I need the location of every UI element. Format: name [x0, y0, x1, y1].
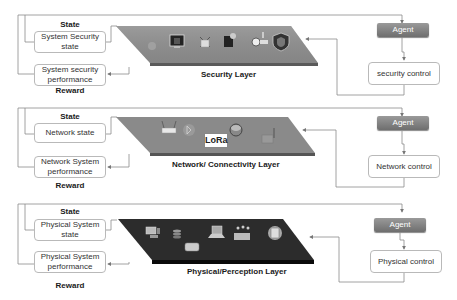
physical-reward-label: Reward	[40, 281, 100, 290]
network-agent[interactable]: Agent	[377, 116, 429, 130]
network-reward-label: Reward	[40, 181, 100, 190]
security-reward-label: Reward	[40, 86, 100, 95]
network-state-box[interactable]: Network state	[34, 123, 106, 143]
network-control-box[interactable]: Network control	[368, 155, 440, 178]
security-agent[interactable]: Agent	[377, 23, 429, 37]
physical-control-box[interactable]: Physical control	[370, 250, 442, 273]
security-state-box[interactable]: System Security state	[34, 31, 106, 53]
security-state-label: State	[40, 20, 100, 29]
security-control-box[interactable]: security control	[368, 62, 440, 85]
security-layer-title: Security Layer	[201, 70, 256, 79]
security-reward-box[interactable]: System security performance	[34, 64, 106, 86]
physical-state-box[interactable]: Physical System state	[34, 219, 106, 241]
lora-icon: LoRa	[204, 133, 228, 148]
physical-layer-title: Physical/Perception Layer	[187, 267, 287, 276]
physical-layer-plane	[118, 219, 314, 260]
network-reward-box[interactable]: Network System performance	[34, 156, 106, 178]
network-state-label: State	[40, 112, 100, 121]
physical-agent[interactable]: Agent	[374, 218, 426, 232]
physical-reward-box[interactable]: Physical System performance	[34, 251, 106, 273]
physical-state-label: State	[40, 207, 100, 216]
network-layer-title: Network/ Connectivity Layer	[172, 160, 280, 169]
